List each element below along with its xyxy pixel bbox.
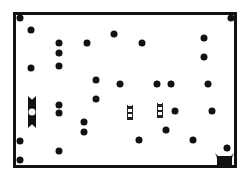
- peg: [81, 129, 88, 136]
- peg: [224, 145, 231, 152]
- peg: [93, 96, 100, 103]
- peg: [56, 148, 63, 155]
- peg: [136, 137, 143, 144]
- ladder-rung: [158, 115, 162, 118]
- gate-hole: [29, 109, 36, 116]
- peg: [205, 81, 212, 88]
- peg: [56, 50, 63, 57]
- gate-block: [28, 96, 36, 128]
- peg: [139, 40, 146, 47]
- peg: [81, 119, 88, 126]
- peg: [172, 108, 179, 115]
- peg: [190, 137, 197, 144]
- peg: [17, 15, 24, 22]
- peg: [56, 110, 63, 117]
- peg: [56, 40, 63, 47]
- ladder-rung: [128, 112, 132, 115]
- peg: [56, 63, 63, 70]
- peg: [163, 127, 170, 134]
- ladder-rung: [158, 104, 162, 107]
- peg: [201, 35, 208, 42]
- peg: [56, 102, 63, 109]
- peg: [17, 138, 24, 145]
- peg: [228, 15, 235, 22]
- peg: [201, 54, 208, 61]
- peg: [28, 65, 35, 72]
- peg: [111, 31, 118, 38]
- peg: [28, 27, 35, 34]
- peg: [209, 108, 216, 115]
- game-board[interactable]: [0, 0, 246, 182]
- ladder-icon: [127, 105, 133, 120]
- cup-goal-icon: [215, 153, 234, 166]
- ladder-rung: [128, 106, 132, 109]
- peg: [168, 81, 175, 88]
- peg: [84, 40, 91, 47]
- peg: [17, 157, 24, 164]
- peg: [154, 81, 161, 88]
- ladder-icon: [157, 103, 163, 118]
- ladder-rung: [128, 117, 132, 120]
- ladder-rung: [158, 110, 162, 113]
- peg: [93, 77, 100, 84]
- peg: [117, 81, 124, 88]
